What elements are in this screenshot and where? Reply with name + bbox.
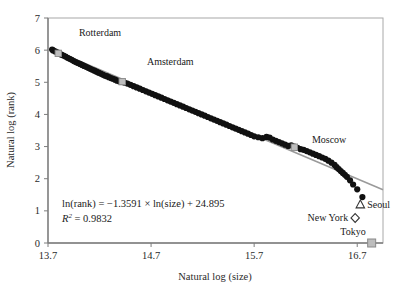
y-tick-label: 3 xyxy=(35,141,40,152)
marker-tokyo xyxy=(368,239,376,247)
x-tick-label: 13.7 xyxy=(39,250,57,261)
y-axis-title: Natural log (rank) xyxy=(5,92,17,168)
x-tick-label: 15.7 xyxy=(245,250,263,261)
y-axis-ticks: 01234567 xyxy=(35,13,48,249)
y-tick-label: 5 xyxy=(35,77,40,88)
data-point xyxy=(350,181,356,187)
y-tick-label: 4 xyxy=(35,109,41,120)
x-tick-label: 14.7 xyxy=(142,250,160,261)
data-point xyxy=(354,186,360,192)
r-squared-value: = 0.9832 xyxy=(72,213,112,224)
label-new-york: New York xyxy=(308,212,349,223)
label-tokyo: Tokyo xyxy=(340,226,365,237)
city-label-rotterdam: Rotterdam xyxy=(79,27,121,38)
scatter-plot-figure: 01234567 13.714.715.716.7 Natural log (s… xyxy=(0,0,408,290)
y-tick-label: 2 xyxy=(35,173,40,184)
city-marker-rotterdam xyxy=(55,50,61,56)
city-label-moscow: Moscow xyxy=(312,134,347,145)
y-tick-label: 1 xyxy=(35,205,40,216)
plot-border xyxy=(48,18,383,243)
regression-equation: ln(rank) = −1.3591 × ln(size) + 24.895 xyxy=(62,198,225,210)
x-axis-ticks: 13.714.715.716.7 xyxy=(39,243,367,261)
x-tick-label: 16.7 xyxy=(348,250,366,261)
y-tick-label: 7 xyxy=(35,13,40,24)
plot-frame xyxy=(48,18,383,243)
y-tick-label: 6 xyxy=(35,45,40,56)
chart-canvas: 01234567 13.714.715.716.7 Natural log (s… xyxy=(0,0,408,290)
x-axis-title: Natural log (size) xyxy=(178,271,252,283)
city-label-amsterdam: Amsterdam xyxy=(147,56,194,67)
y-tick-label: 0 xyxy=(35,238,40,249)
city-marker-amsterdam xyxy=(119,78,125,84)
city-marker-moscow xyxy=(291,144,297,150)
label-seoul: Seoul xyxy=(367,199,390,210)
